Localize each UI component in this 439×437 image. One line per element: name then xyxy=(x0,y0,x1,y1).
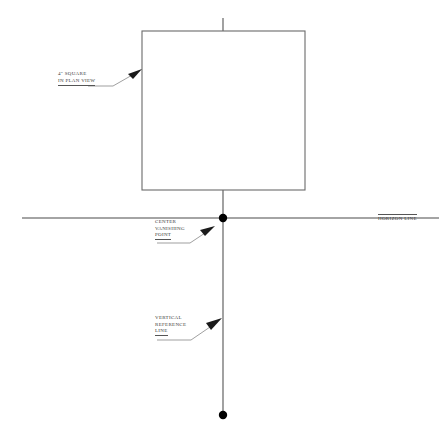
label-center-vanishing-point-line3: POINT xyxy=(155,232,171,240)
leader-plan-square xyxy=(88,69,142,86)
center-vanishing-point-dot xyxy=(219,214,227,222)
plan-view-square xyxy=(142,31,305,190)
diagram-linework xyxy=(0,0,439,437)
label-horizon-line: HORIZON LINE xyxy=(378,214,417,223)
label-vertical-reference-line: VERTICAL REFERENCE LINE xyxy=(155,315,186,336)
vertical-line-endpoint-dot xyxy=(219,411,227,419)
label-plan-view-square: 4" SQUARE IN PLAN VIEW xyxy=(58,71,95,86)
label-center-vanishing-point: CENTER VANISHING POINT xyxy=(155,219,185,240)
label-vertical-reference-line3: LINE xyxy=(155,328,168,336)
label-plan-view-square-line2: IN PLAN VIEW xyxy=(58,78,95,86)
label-vertical-reference-line1: VERTICAL xyxy=(155,315,186,322)
perspective-diagram-canvas: 4" SQUARE IN PLAN VIEW CENTER VANISHING … xyxy=(0,0,439,437)
label-horizon-line-text: HORIZON LINE xyxy=(378,214,417,223)
